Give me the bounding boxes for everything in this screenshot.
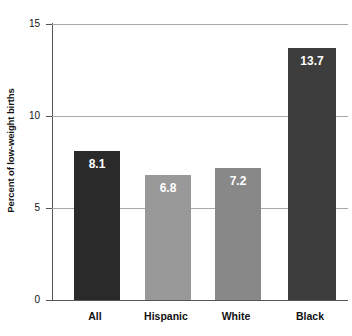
bar-all[interactable]: 8.1 bbox=[74, 151, 120, 300]
x-category-label-black: Black bbox=[276, 310, 344, 322]
bar-hispanic[interactable]: 6.8 bbox=[145, 175, 191, 300]
y-tick-label-15: 15 bbox=[16, 18, 40, 29]
x-category-label-hispanic: Hispanic bbox=[133, 310, 199, 322]
bar-chart: Percent of low-weight births 15 10 5 0 8… bbox=[0, 0, 352, 336]
x-axis-spine bbox=[52, 300, 348, 301]
bar-white[interactable]: 7.2 bbox=[215, 168, 261, 300]
y-tick-label-5: 5 bbox=[16, 202, 40, 213]
bar-value-black: 13.7 bbox=[288, 54, 336, 68]
y-axis-title-text: Percent of low-weight births bbox=[5, 88, 16, 212]
gridline-15 bbox=[52, 24, 348, 25]
bar-value-all: 8.1 bbox=[74, 157, 120, 171]
y-tick-label-10: 10 bbox=[16, 110, 40, 121]
bar-value-white: 7.2 bbox=[215, 174, 261, 188]
y-tick-label-0: 0 bbox=[16, 294, 40, 305]
x-category-label-all: All bbox=[62, 310, 128, 322]
bar-value-hispanic: 6.8 bbox=[145, 181, 191, 195]
x-category-label-white: White bbox=[203, 310, 269, 322]
y-axis-title: Percent of low-weight births bbox=[0, 0, 20, 300]
bar-black[interactable]: 13.7 bbox=[288, 48, 336, 300]
plot-area: 8.1 6.8 7.2 13.7 bbox=[52, 24, 348, 300]
